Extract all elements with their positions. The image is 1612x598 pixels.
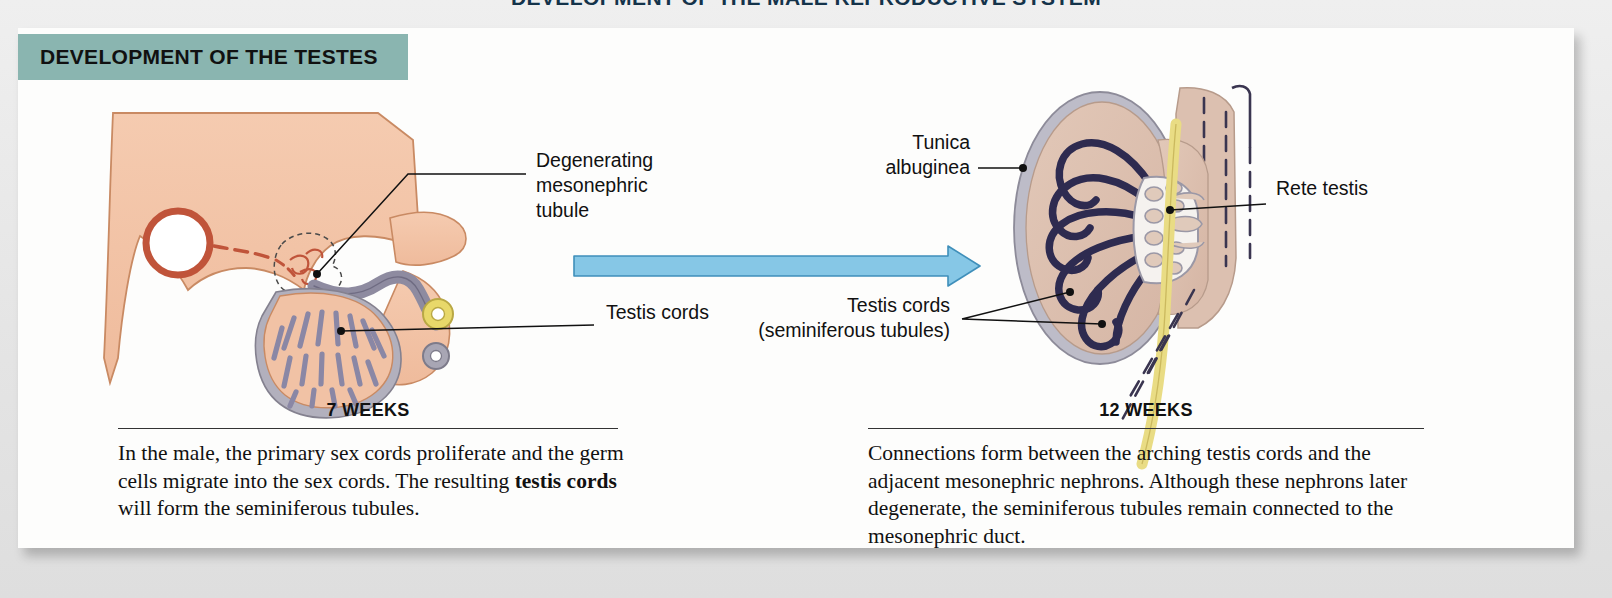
caption-left-part2: will form the seminiferous tubules. [118,496,420,520]
caption-right: Connections form between the arching tes… [868,440,1434,548]
vessel-ring [146,211,210,275]
page-title: DEVELOPMENT OF THE MALE REPRODUCTIVE SYS… [0,0,1612,8]
figure-card: DEVELOPMENT OF THE TESTES [18,28,1574,548]
stage-label-12-weeks: 12 WEEKS [868,400,1424,421]
label-degenerating-mesonephric-tubule: Degenerating mesonephric tubule [536,148,653,223]
label-tunica-albuginea: Tunica albuginea [778,130,970,180]
caption-left: In the male, the primary sex cords proli… [118,440,628,523]
label-testis-cords-right: Testis cords (seminiferous tubules) [694,293,950,343]
divider-left [118,428,618,429]
seven-week-embryo-diagram [104,113,594,418]
progression-arrow-shape [574,246,980,286]
stage-label-7-weeks: 7 WEEKS [118,400,618,421]
divider-right [868,428,1424,429]
label-rete-testis: Rete testis [1276,176,1368,201]
genital-fold [390,212,466,265]
caption-left-bold: testis cords [515,469,617,493]
illustration-stage: Degenerating mesonephric tubule Testis c… [18,28,1574,548]
mesonephric-duct-lumen [432,308,445,321]
paramesonephric-duct-lumen [431,351,442,362]
progression-arrow [574,246,980,286]
